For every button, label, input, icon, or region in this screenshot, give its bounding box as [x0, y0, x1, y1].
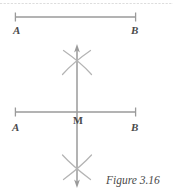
top-segment-group	[15, 13, 136, 22]
label-point-A-top: A	[13, 25, 20, 36]
label-point-A-bottom: A	[12, 122, 19, 133]
figure-drawing	[0, 0, 173, 195]
label-point-B-top: B	[131, 25, 138, 36]
label-point-M: M	[73, 116, 83, 127]
label-point-B-bottom: B	[131, 122, 138, 133]
geometry-figure: A B A M B Figure 3.16	[0, 0, 173, 195]
figure-caption: Figure 3.16	[106, 175, 160, 187]
